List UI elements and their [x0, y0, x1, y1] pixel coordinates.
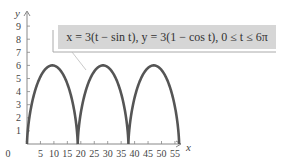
y-tick-label: 2: [16, 112, 21, 123]
x-tick-label: 15: [62, 148, 72, 159]
formula-text: x = 3(t − sin t), y = 3(1 − cos t), 0 ≤ …: [66, 30, 268, 45]
cycloid-curve: [27, 65, 179, 144]
y-tick-label: 8: [16, 34, 21, 45]
y-tick-label: 3: [16, 99, 21, 110]
x-tick-label: 50: [157, 148, 167, 159]
x-tick-label: 10: [49, 148, 59, 159]
pointer-line: [72, 52, 86, 70]
x-tick-label: 55: [170, 148, 180, 159]
y-tick-label: 1: [16, 125, 21, 136]
y-tick-label: 5: [16, 73, 21, 84]
x-axis-label: x: [185, 141, 191, 153]
x-tick-label: 5: [38, 148, 43, 159]
formula-label: x = 3(t − sin t), y = 3(1 − cos t), 0 ≤ …: [58, 25, 276, 49]
x-tick-label: 40: [130, 148, 140, 159]
x-tick-label: 20: [76, 148, 86, 159]
x-tick-label: 35: [116, 148, 126, 159]
x-tick-label: 0: [6, 148, 11, 159]
y-tick-label: 9: [16, 21, 21, 32]
y-tick-label: 7: [16, 47, 21, 58]
x-tick-label: 30: [103, 148, 113, 159]
x-tick-label: 45: [143, 148, 153, 159]
x-tick-label: 25: [89, 148, 99, 159]
y-axis-label: y: [14, 7, 20, 19]
y-tick-label: 6: [16, 60, 21, 71]
y-tick-label: 4: [16, 86, 21, 97]
